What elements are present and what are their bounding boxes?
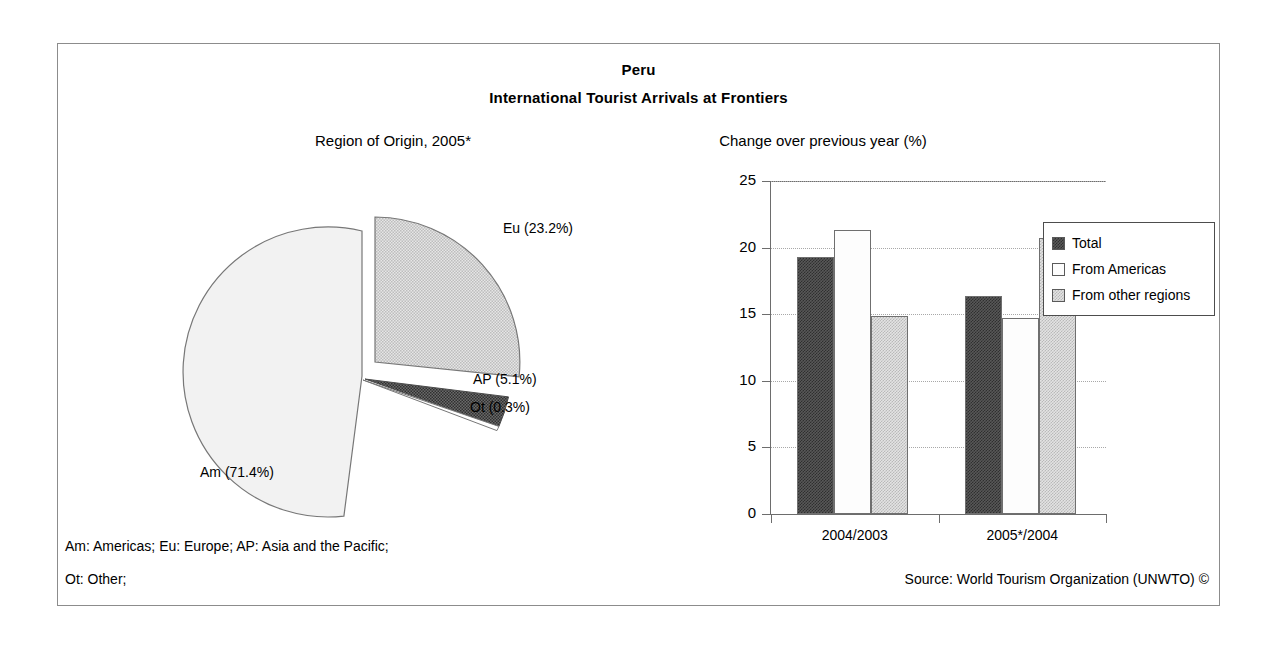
pie-label-eu: Eu (23.2%) xyxy=(503,220,573,236)
legend-swatch-from-other-regions xyxy=(1052,289,1065,302)
x-axis-tick xyxy=(771,515,772,523)
x-axis-tick xyxy=(939,515,940,523)
bar-from-americas-2004-2003 xyxy=(834,230,871,514)
x-axis-label: 2005*/2004 xyxy=(952,527,1092,543)
legend-item-total: Total xyxy=(1052,230,1206,256)
page-subtitle: International Tourist Arrivals at Fronti… xyxy=(58,89,1219,106)
footnote-line-1: Am: Americas; Eu: Europe; AP: Asia and t… xyxy=(65,538,389,554)
bar-chart-title: Change over previous year (%) xyxy=(658,132,988,149)
bar-total-2004-2003 xyxy=(797,257,834,514)
pie-chart-title: Region of Origin, 2005* xyxy=(228,132,558,149)
y-axis-tick xyxy=(762,381,770,382)
chart-legend: Total From Americas From other regions xyxy=(1043,222,1215,316)
y-axis-tick xyxy=(762,248,770,249)
y-axis-tick xyxy=(762,314,770,315)
bar-chart: 0510152025 2004/20032005*/2004 Total Fro… xyxy=(658,154,1218,604)
legend-swatch-from-americas xyxy=(1052,263,1065,276)
y-axis-label: 15 xyxy=(696,304,756,321)
y-axis-tick xyxy=(762,447,770,448)
footnote-line-2: Ot: Other; xyxy=(65,571,126,587)
legend-item-from-americas: From Americas xyxy=(1052,256,1206,282)
pie-label-ap: AP (5.1%) xyxy=(473,371,537,387)
y-axis-tick xyxy=(762,181,770,182)
bar-from-americas-2005--2004 xyxy=(1002,318,1039,514)
bar-from-other-regions-2004-2003 xyxy=(871,316,908,514)
legend-label-total: Total xyxy=(1072,235,1102,251)
source-note: Source: World Tourism Organization (UNWT… xyxy=(905,571,1209,587)
legend-label-from-americas: From Americas xyxy=(1072,261,1166,277)
page-title: Peru xyxy=(58,61,1219,78)
pie-slice-eu xyxy=(375,217,520,377)
legend-swatch-total xyxy=(1052,237,1065,250)
pie-label-am: Am (71.4%) xyxy=(200,464,274,480)
y-axis-label: 0 xyxy=(696,504,756,521)
chart-frame: Peru International Tourist Arrivals at F… xyxy=(57,43,1220,606)
legend-label-from-other-regions: From other regions xyxy=(1072,287,1190,303)
y-axis-label: 5 xyxy=(696,437,756,454)
y-axis-label: 20 xyxy=(696,238,756,255)
legend-item-from-other-regions: From other regions xyxy=(1052,282,1206,308)
pie-label-ot: Ot (0.3%) xyxy=(470,399,530,415)
bar-total-2005--2004 xyxy=(965,296,1002,514)
y-axis-label: 10 xyxy=(696,371,756,388)
x-axis-tick xyxy=(1106,515,1107,523)
x-axis-label: 2004/2003 xyxy=(785,527,925,543)
pie-chart: Eu (23.2%) AP (5.1%) Ot (0.3%) Am (71.4%… xyxy=(148,164,668,534)
y-axis-label: 25 xyxy=(696,171,756,188)
y-axis-tick xyxy=(762,514,770,515)
